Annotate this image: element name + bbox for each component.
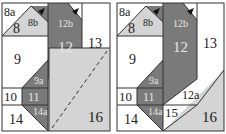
- label-14a: 14a: [148, 106, 163, 117]
- label-16: 16: [88, 109, 104, 125]
- label-10: 10: [4, 89, 17, 104]
- label-8b: 8b: [143, 17, 153, 28]
- label-12a: 12a: [182, 88, 200, 102]
- quilt-block-diagrams: 8a 8 8b 12b 12 13 9 9a 10 11 14a 14 16: [0, 0, 226, 134]
- label-8: 8: [13, 21, 20, 36]
- label-14: 14: [124, 112, 138, 127]
- label-12: 12: [58, 39, 73, 55]
- label-12b: 12b: [58, 18, 73, 29]
- left-block: 8a 8 8b 12b 12 13 9 9a 10 11 14a 14 16: [2, 3, 110, 131]
- label-9a: 9a: [149, 75, 159, 86]
- label-8a: 8a: [4, 5, 16, 19]
- label-10: 10: [119, 89, 132, 104]
- label-13: 13: [88, 36, 102, 51]
- label-9: 9: [14, 52, 21, 67]
- label-9: 9: [129, 52, 136, 67]
- label-12: 12: [173, 39, 188, 55]
- right-block: 8a 8 8b 12b 12 13 9 9a 10 11 14a 14 12a …: [117, 3, 224, 131]
- label-11: 11: [143, 90, 155, 104]
- label-11: 11: [28, 90, 40, 104]
- label-13: 13: [203, 36, 217, 51]
- label-14a: 14a: [33, 106, 48, 117]
- label-12b: 12b: [173, 18, 188, 29]
- label-16: 16: [202, 109, 218, 125]
- label-8b: 8b: [28, 17, 38, 28]
- label-8a: 8a: [119, 5, 131, 19]
- label-15: 15: [165, 105, 178, 120]
- label-14: 14: [9, 112, 23, 127]
- label-9a: 9a: [34, 75, 44, 86]
- label-8: 8: [128, 21, 135, 36]
